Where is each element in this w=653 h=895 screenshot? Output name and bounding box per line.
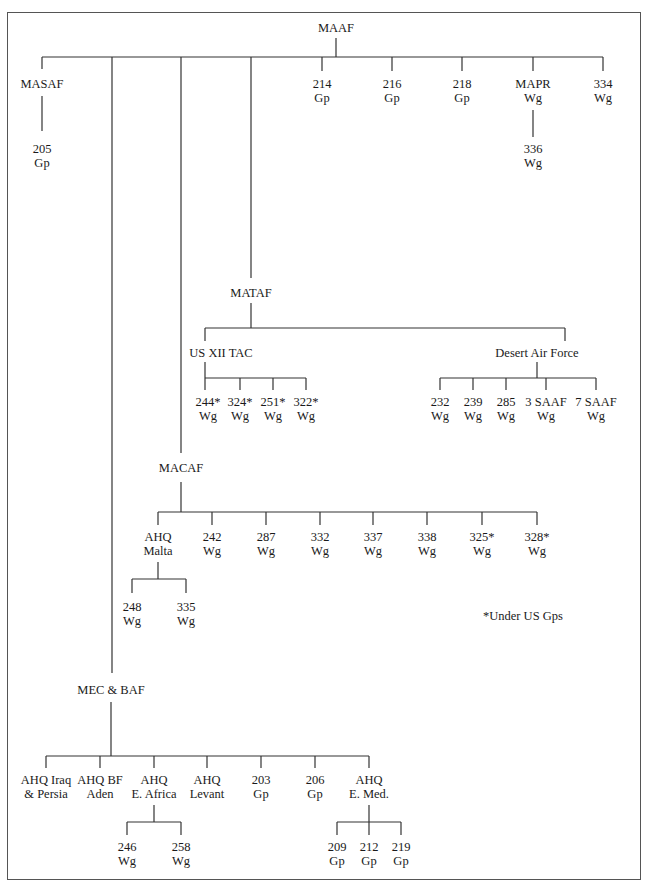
node-sublabel: Gp (392, 854, 411, 868)
node-sublabel: Wg (575, 409, 616, 423)
node-label: MASAF (20, 77, 63, 91)
node-label: MAPR (515, 77, 550, 91)
node-label: MEC & BAF (77, 683, 144, 697)
node-label: 332 (311, 530, 330, 544)
org-node-ahqea: AHQE. Africa (131, 773, 176, 801)
node-sublabel: Gp (313, 91, 332, 105)
node-label: 324* (228, 395, 253, 409)
node-sublabel: Gp (33, 156, 52, 170)
node-label: 203 (252, 773, 271, 787)
node-label: 7 SAAF (575, 395, 616, 409)
node-sublabel: Gp (252, 787, 271, 801)
node-sublabel: Wg (525, 409, 566, 423)
org-node-w244: 244*Wg (196, 395, 221, 423)
org-node-w248: 248Wg (123, 600, 142, 628)
node-sublabel: Wg (431, 409, 450, 423)
org-node-w287: 287Wg (257, 530, 276, 558)
node-sublabel: Wg (172, 854, 191, 868)
node-sublabel: Wg (364, 544, 383, 558)
node-sublabel: Wg (196, 409, 221, 423)
node-label: AHQ BF (77, 773, 123, 787)
node-label: MATAF (230, 286, 271, 300)
node-label: 242 (203, 530, 222, 544)
node-sublabel: Malta (143, 544, 172, 558)
node-sublabel: Gp (360, 854, 379, 868)
node-sublabel: E. Med. (349, 787, 389, 801)
node-label: 334 (594, 77, 613, 91)
node-label: 219 (392, 840, 411, 854)
node-label: 335 (177, 600, 196, 614)
node-label: MAAF (318, 21, 354, 35)
org-node-ahqbf: AHQ BFAden (77, 773, 123, 801)
node-label: US XII TAC (189, 346, 252, 360)
node-label: 3 SAAF (525, 395, 566, 409)
node-label: 244* (196, 395, 221, 409)
org-node-g212: 212Gp (360, 840, 379, 868)
node-sublabel: Gp (383, 91, 402, 105)
org-node-g209: 209Gp (328, 840, 347, 868)
node-sublabel: Wg (177, 614, 196, 628)
org-node-g219: 219Gp (392, 840, 411, 868)
node-sublabel: Levant (190, 787, 225, 801)
org-node-mapr: MAPRWg (515, 77, 550, 105)
node-sublabel: Aden (77, 787, 123, 801)
org-node-w325: 325*Wg (470, 530, 495, 558)
node-sublabel: Gp (328, 854, 347, 868)
org-node-w332: 332Wg (311, 530, 330, 558)
org-node-maaf: MAAF (318, 21, 354, 35)
node-sublabel: Wg (525, 544, 550, 558)
org-node-w324: 324*Wg (228, 395, 253, 423)
org-node-macaf: MACAF (159, 461, 203, 475)
org-node-w251: 251*Wg (261, 395, 286, 423)
node-sublabel: Wg (311, 544, 330, 558)
node-label: 214 (313, 77, 332, 91)
node-sublabel: Gp (306, 787, 325, 801)
node-label: 206 (306, 773, 325, 787)
node-sublabel: Gp (453, 91, 472, 105)
node-label: 336 (524, 142, 543, 156)
org-node-saaf3: 3 SAAFWg (525, 395, 566, 423)
node-label: 216 (383, 77, 402, 91)
node-sublabel: Wg (470, 544, 495, 558)
node-label: 322* (294, 395, 319, 409)
node-sublabel: Wg (464, 409, 483, 423)
footnote: *Under US Gps (483, 609, 563, 624)
org-node-saaf7: 7 SAAFWg (575, 395, 616, 423)
node-sublabel: Wg (228, 409, 253, 423)
org-node-ahqmalta: AHQMalta (143, 530, 172, 558)
org-node-g206: 206Gp (306, 773, 325, 801)
org-node-w328: 328*Wg (525, 530, 550, 558)
org-node-w336: 336Wg (524, 142, 543, 170)
node-label: 232 (431, 395, 450, 409)
node-sublabel: E. Africa (131, 787, 176, 801)
node-sublabel: Wg (203, 544, 222, 558)
org-node-usxii: US XII TAC (189, 346, 252, 360)
node-sublabel: Wg (118, 854, 137, 868)
org-node-daf: Desert Air Force (495, 346, 578, 360)
node-label: 246 (118, 840, 137, 854)
node-sublabel: Wg (524, 156, 543, 170)
node-label: 248 (123, 600, 142, 614)
node-label: 258 (172, 840, 191, 854)
node-label: 285 (497, 395, 516, 409)
org-node-w258: 258Wg (172, 840, 191, 868)
node-label: AHQ (349, 773, 389, 787)
org-node-w334: 334Wg (594, 77, 613, 105)
node-label: Desert Air Force (495, 346, 578, 360)
org-node-g203: 203Gp (252, 773, 271, 801)
node-sublabel: Wg (418, 544, 437, 558)
node-sublabel: Wg (594, 91, 613, 105)
org-node-w239: 239Wg (464, 395, 483, 423)
connector-lines (0, 0, 653, 895)
node-label: 205 (33, 142, 52, 156)
node-sublabel: Wg (261, 409, 286, 423)
org-node-masaf: MASAF (20, 77, 63, 91)
node-label: 338 (418, 530, 437, 544)
org-node-g216: 216Gp (383, 77, 402, 105)
node-label: AHQ (190, 773, 225, 787)
node-label: AHQ (143, 530, 172, 544)
node-label: 212 (360, 840, 379, 854)
node-label: 287 (257, 530, 276, 544)
node-label: 251* (261, 395, 286, 409)
org-node-w335: 335Wg (177, 600, 196, 628)
